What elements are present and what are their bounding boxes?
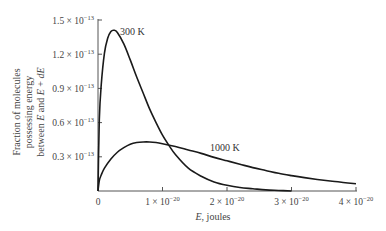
label-300k: 300 K [120,26,146,37]
x-tick-label: 1 × 10−20 [145,195,180,207]
y-tick-label: 1.5 × 10−13 [52,14,94,26]
y-tick-label: 1.2 × 10−13 [52,48,94,60]
x-tick-label: 4 × 10−20 [339,195,374,207]
x-tick-label: 3 × 10−20 [274,195,309,207]
x-tick-label: 0 [96,197,101,207]
x-tick-label: 2 × 10−20 [210,195,245,207]
x-axis-title: E, joules [195,211,231,222]
maxwell-boltzmann-chart: Fraction of molecules possessing energy … [0,0,386,231]
y-tick-label: 0.6 × 10−13 [52,116,94,128]
y-tick-label: 0.9 × 10−13 [52,82,94,94]
y-title-line-1: Fraction of molecules [11,68,22,155]
y-title-line-3: between E and E + dE [35,67,46,156]
curve-300k [98,30,292,191]
y-ticks: 0.3 × 10−130.6 × 10−130.9 × 10−131.2 × 1… [52,14,102,163]
y-axis-title: Fraction of molecules possessing energy … [11,67,46,156]
y-title-line-2: possessing energy [23,76,34,148]
label-1000k: 1000 K [210,142,241,153]
x-ticks: 01 × 10−202 × 10−203 × 10−204 × 10−20 [96,187,374,207]
y-tick-label: 0.3 × 10−13 [52,150,94,162]
